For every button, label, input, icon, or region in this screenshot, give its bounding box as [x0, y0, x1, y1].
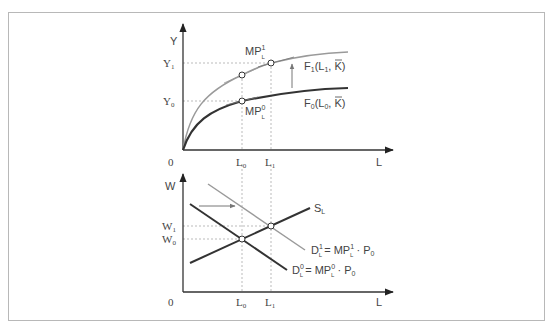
l0-tick-label-top: L0 — [236, 156, 247, 170]
supply-label: SL — [314, 202, 325, 215]
f1-curve-label: F1(L1, K) — [304, 60, 345, 73]
origin-label-bottom: 0 — [168, 296, 174, 308]
labor-market-panel: W W1 W0 0 L0 L1 L SL D1L= MP1L · P0 D0L=… — [162, 174, 393, 310]
f0-curve-label: F0(L0, K) — [304, 97, 345, 110]
x-axis-label-bottom: L — [376, 296, 382, 308]
w1-tick-label: W1 — [162, 220, 176, 234]
l0-tick-label-bottom: L0 — [236, 296, 247, 310]
diagram-canvas: Y Y1 Y0 0 L0 L1 L MP1L MP0L F1(L1, K) F0… — [0, 0, 554, 332]
y-axis-label: Y — [170, 35, 178, 47]
w-axis-label: W — [165, 180, 176, 192]
point-f0-l0 — [239, 98, 245, 104]
origin-label-top: 0 — [168, 156, 174, 168]
y1-tick-label: Y1 — [163, 57, 175, 71]
w0-tick-label: W0 — [162, 233, 176, 247]
mp0-label: MP0L — [245, 104, 266, 120]
d1-label: D1L= MP1L · P0 — [311, 243, 375, 258]
y0-tick-label: Y0 — [163, 95, 175, 109]
point-f1-l0 — [239, 72, 245, 78]
d0-label: D0L= MP0L · P0 — [292, 263, 356, 278]
l1-tick-label-bottom: L1 — [265, 296, 276, 310]
x-axis-label-top: L — [376, 156, 382, 168]
equilibrium-point-0 — [239, 236, 245, 242]
demand-curve-d0 — [190, 204, 287, 270]
point-f1-l1 — [268, 60, 274, 66]
mp1-label: MP1L — [245, 44, 266, 60]
l1-tick-label-top: L1 — [265, 156, 276, 170]
equilibrium-point-1 — [268, 223, 274, 229]
